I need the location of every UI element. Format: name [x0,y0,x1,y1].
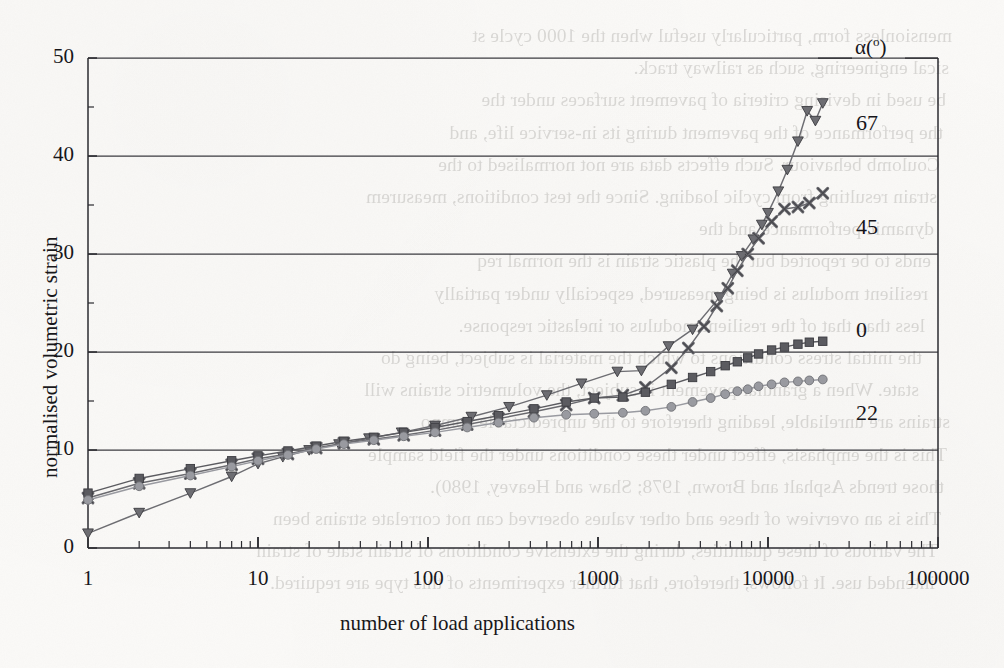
x-tick-label: 1 [28,566,148,591]
x-tick-label: 1000 [538,566,658,591]
y-tick-label: 30 [14,240,74,265]
x-tick-label: 100 [368,566,488,591]
x-tick-label: 10 [198,566,318,591]
x-tick-label: 100000 [878,566,998,591]
y-tick-label: 0 [14,534,74,559]
legend-label-45: 45 [856,214,878,240]
legend-title: α(o) [855,34,887,60]
x-tick-label: 10000 [708,566,828,591]
axis-ticks [88,58,938,548]
y-tick-label: 40 [14,142,74,167]
y-tick-label: 20 [14,338,74,363]
legend-label-67: 67 [856,110,878,136]
plot-area [0,0,1004,668]
data-series [83,99,829,539]
legend-label-22: 22 [856,400,878,426]
y-tick-label: 50 [14,44,74,69]
legend-label-0: 0 [856,317,867,343]
chart-canvas: normalised volumetric strain number of l… [0,0,1004,668]
x-axis-title: number of load applications [340,611,575,636]
plot-frame [88,58,938,548]
y-tick-label: 10 [14,436,74,461]
